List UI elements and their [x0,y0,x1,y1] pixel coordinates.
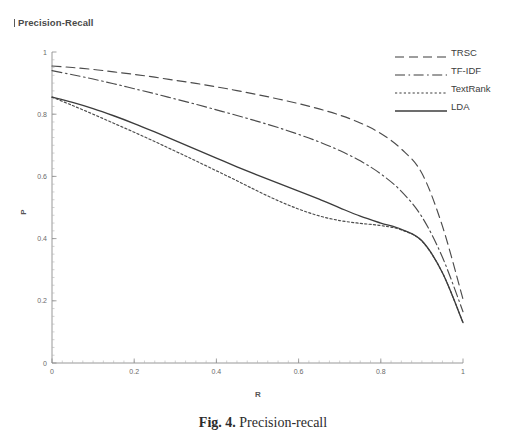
y-tick-label: 0.2 [37,297,47,304]
legend-item-trsc[interactable]: TRSC [395,44,521,62]
series-line-textrank [52,97,463,322]
x-tick-label: 0.4 [212,368,222,375]
x-tick-label: 0 [50,368,54,375]
y-axis-label: P [19,209,28,215]
chart-legend: TRSCTF-IDFTextRankLDA [395,44,521,116]
legend-line-sample [395,102,447,112]
legend-item-label: LDA [451,102,469,112]
legend-line-sample [395,66,447,76]
y-tick-label: 0.6 [37,173,47,180]
y-tick-label: 1 [43,49,47,56]
legend-item-label: TRSC [451,48,477,58]
figure-root: Precision-Recall 00.20.40.60.8100.20.40.… [0,0,526,439]
x-tick-label: 0.6 [294,368,304,375]
y-tick-label: 0 [43,360,47,367]
legend-item-textrank[interactable]: TextRank [395,80,521,98]
x-tick-label: 0.8 [376,368,386,375]
x-tick-label: 1 [461,368,465,375]
x-axis-label: R [255,390,261,399]
legend-item-tf-idf[interactable]: TF-IDF [395,62,521,80]
legend-line-sample [395,84,447,94]
caption-label: Fig. 4. [199,415,236,430]
caption-text: Precision-recall [239,415,327,430]
legend-item-lda[interactable]: LDA [395,98,521,116]
x-tick-label: 0.2 [129,368,139,375]
legend-line-sample [395,48,447,58]
legend-item-label: TF-IDF [451,66,481,76]
axis-titles-group: P R [19,209,261,399]
legend-item-label: TextRank [451,84,491,94]
figure-caption: Fig. 4. Precision-recall [0,415,526,431]
series-line-lda [52,97,463,322]
y-tick-label: 0.8 [37,111,47,118]
y-tick-label: 0.4 [37,235,47,242]
